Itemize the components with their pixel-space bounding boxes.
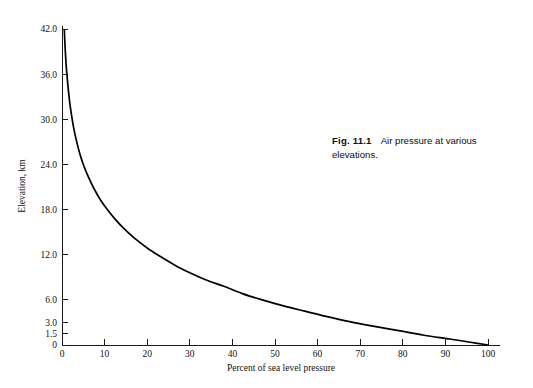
y-tick-label: 0 bbox=[52, 340, 57, 350]
data-series-group bbox=[64, 31, 488, 346]
y-axis-ticks: 01.53.06.012.018.024.030.036.042.0 bbox=[40, 24, 68, 350]
figure-container: 01.53.06.012.018.024.030.036.042.0 01020… bbox=[0, 0, 533, 388]
air-pressure-elevation-chart: 01.53.06.012.018.024.030.036.042.0 01020… bbox=[0, 0, 533, 388]
y-tick-label: 12.0 bbox=[40, 250, 57, 260]
y-tick-label: 6.0 bbox=[45, 295, 57, 305]
y-tick-label: 30.0 bbox=[40, 115, 57, 125]
x-tick-label: 80 bbox=[398, 349, 408, 359]
y-tick-label: 1.5 bbox=[45, 329, 57, 339]
x-tick-label: 100 bbox=[481, 349, 496, 359]
figure-caption: Fig. 11.1Air pressure at various elevati… bbox=[332, 134, 510, 161]
x-tick-label: 10 bbox=[100, 349, 110, 359]
x-tick-label: 30 bbox=[185, 349, 195, 359]
x-tick-label: 0 bbox=[60, 349, 65, 359]
x-tick-label: 40 bbox=[228, 349, 238, 359]
y-tick-label: 18.0 bbox=[40, 205, 57, 215]
figure-caption-label: Fig. 11.1 bbox=[332, 135, 372, 146]
y-tick-label: 24.0 bbox=[40, 160, 57, 170]
x-tick-label: 50 bbox=[270, 349, 280, 359]
x-tick-label: 60 bbox=[313, 349, 323, 359]
x-tick-label: 20 bbox=[142, 349, 152, 359]
y-tick-label: 36.0 bbox=[40, 70, 57, 80]
y-tick-label: 3.0 bbox=[45, 318, 57, 328]
x-axis-title: Percent of sea level pressure bbox=[227, 363, 335, 373]
pressure-elevation-curve bbox=[64, 31, 488, 346]
x-tick-label: 90 bbox=[441, 349, 451, 359]
y-tick-label: 42.0 bbox=[40, 24, 57, 34]
x-axis-ticks: 0102030405060708090100 bbox=[60, 339, 496, 359]
y-axis-title: Elevation, km bbox=[17, 159, 27, 213]
x-tick-label: 70 bbox=[355, 349, 365, 359]
